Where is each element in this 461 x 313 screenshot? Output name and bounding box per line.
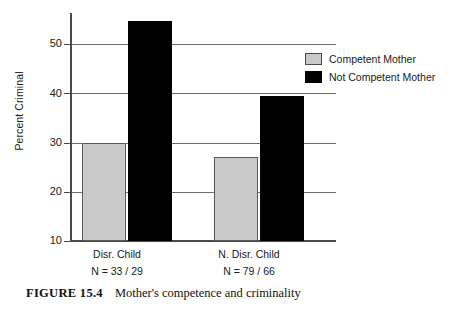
figure-container: Percent Criminal 50 40 30 20 10 Disr. Ch… [0,0,461,313]
legend-swatch-not-competent-mother [305,71,322,83]
x-group-n-1: N = 79 / 66 [194,264,304,278]
y-tick-label-20: 20 [36,186,62,197]
figure-caption-label: FIGURE 15.4 [26,286,103,300]
bar-disr-child-competent [82,143,126,241]
bar-disr-child-not-competent [128,21,172,241]
legend-label-not-competent-mother: Not Competent Mother [329,70,435,84]
y-tick-40: 40 [26,88,62,99]
figure-caption: FIGURE 15.4Mother's competence and crimi… [26,286,301,301]
figure-caption-text: Mother's competence and criminality [115,286,301,300]
y-axis-title: Percent Criminal [13,61,25,161]
bar-ndisr-child-competent [214,157,258,241]
x-group-name-0: Disr. Child [93,248,141,260]
x-group-name-1: N. Disr. Child [218,248,279,260]
y-tick-10: 10 [26,235,62,246]
bars-layer [70,13,336,241]
y-tick-30: 30 [26,137,62,148]
y-tick-20: 20 [26,186,62,197]
bar-ndisr-child-not-competent [260,96,304,241]
y-tick-label-50: 50 [36,38,62,49]
x-group-label-ndisr-child: N. Disr. Child N = 79 / 66 [194,247,304,278]
y-tick-label-30: 30 [36,137,62,148]
legend-label-competent-mother: Competent Mother [329,52,416,66]
legend-swatch-competent-mother [305,53,322,65]
x-group-n-0: N = 33 / 29 [62,264,172,278]
x-group-label-disr-child: Disr. Child N = 33 / 29 [62,247,172,278]
y-tick-label-10: 10 [36,235,62,246]
y-tick-50: 50 [26,38,62,49]
y-tick-label-40: 40 [36,88,62,99]
